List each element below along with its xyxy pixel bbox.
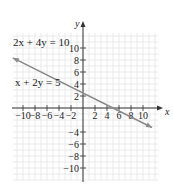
y-tick-label: 4: [74, 79, 79, 90]
y-tick-label: −8: [68, 151, 79, 162]
y-tick-label: −10: [63, 163, 79, 174]
equation-label-2x-4y-10: 2x + 4y = 10: [13, 36, 70, 48]
y-tick-label: −6: [68, 139, 79, 150]
x-tick-label: −8: [30, 110, 41, 121]
y-axis-arrow-icon: [81, 21, 86, 27]
x-tick-label: 2: [93, 110, 98, 121]
x-tick-label: −10: [15, 110, 31, 121]
x-tick-label: 10: [138, 110, 148, 121]
y-tick-label: 10: [69, 43, 79, 54]
coordinate-plane: −10−8−6−4−2246810 108642−4−6−8−10 x y 2x…: [0, 0, 173, 188]
equation-label-x-2y-5: x + 2y = 5: [15, 76, 61, 88]
x-tick-label: −4: [54, 110, 65, 121]
grid: [13, 33, 158, 180]
y-tick-label: 8: [74, 55, 79, 66]
y-tick-label: 2: [74, 91, 79, 102]
x-tick-label: 4: [105, 110, 110, 121]
x-tick-label: −6: [42, 110, 53, 121]
y-tick-label: 6: [74, 67, 79, 78]
y-tick-label: −4: [68, 127, 79, 138]
x-axis-label: x: [164, 106, 170, 117]
x-tick-label: −2: [66, 110, 77, 121]
x-axis-arrow-icon: [157, 106, 163, 111]
y-axis-label: y: [74, 18, 80, 29]
